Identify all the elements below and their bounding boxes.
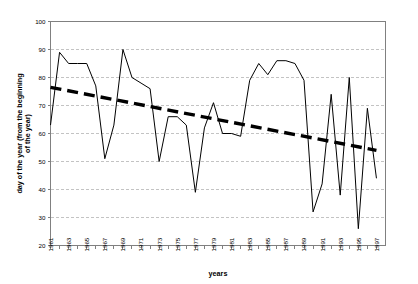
x-tick-label: 1989 — [300, 237, 307, 251]
x-tick-label: 1969 — [119, 237, 126, 251]
y-tick-label: 30 — [39, 214, 46, 221]
x-axis-title: years — [209, 269, 228, 278]
x-tick-label: 1997 — [373, 237, 380, 251]
x-tick-label: 1965 — [83, 237, 90, 251]
x-tick-label: 1961 — [47, 237, 54, 251]
y-tick-label: 70 — [39, 102, 46, 109]
x-tick-label: 1971 — [137, 237, 144, 251]
x-tick-label: 1973 — [156, 237, 163, 251]
x-axis-ticks: 1961196319651967196919711973197519771979… — [47, 237, 380, 251]
y-tick-label: 100 — [35, 18, 46, 25]
chart-container: 2030405060708090100196119631965196719691… — [0, 0, 418, 284]
y-tick-label: 20 — [39, 242, 46, 249]
y-tick-label: 80 — [39, 74, 46, 81]
x-tick-label: 1963 — [65, 237, 72, 251]
x-tick-label: 1993 — [337, 237, 344, 251]
x-tick-label: 1985 — [264, 237, 271, 251]
y-tick-label: 40 — [39, 186, 46, 193]
line-chart: 2030405060708090100196119631965196719691… — [0, 0, 418, 284]
x-tick-label: 1979 — [210, 237, 217, 251]
x-tick-label: 1995 — [355, 237, 362, 251]
y-tick-label: 50 — [39, 158, 46, 165]
x-tick-label: 1983 — [246, 237, 253, 251]
x-tick-label: 1981 — [228, 237, 235, 251]
x-tick-label: 1987 — [282, 237, 289, 251]
y-tick-label: 60 — [39, 130, 46, 137]
x-tick-label: 1975 — [174, 237, 181, 251]
data-series-line — [51, 50, 377, 229]
y-axis-ticks: 2030405060708090100 — [35, 18, 50, 249]
x-tick-label: 1977 — [192, 237, 199, 251]
x-tick-label: 1967 — [101, 237, 108, 251]
x-tick-label: 1991 — [319, 237, 326, 251]
y-tick-label: 90 — [39, 46, 46, 53]
y-axis-title-line2: of the year) — [23, 114, 32, 153]
